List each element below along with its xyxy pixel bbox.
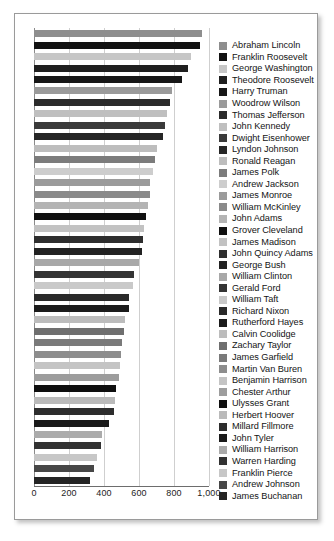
bar <box>34 87 172 94</box>
legend-swatch-icon <box>219 134 227 142</box>
legend-item-label: Dwight Eisenhower <box>232 133 310 144</box>
legend-item[interactable]: Harry Truman <box>219 86 317 98</box>
legend-item[interactable]: John Adams <box>219 213 317 225</box>
legend-item[interactable]: William McKinley <box>219 202 317 214</box>
legend-item[interactable]: Dwight Eisenhower <box>219 132 317 144</box>
legend-item[interactable]: James Polk <box>219 167 317 179</box>
bar <box>34 248 142 255</box>
legend-swatch-icon <box>219 388 227 396</box>
legend-item-label: Calvin Coolidge <box>232 329 296 340</box>
legend-item[interactable]: James Buchanan <box>219 490 317 502</box>
legend-item-label: Zachary Taylor <box>232 340 291 351</box>
legend-item[interactable]: James Madison <box>219 236 317 248</box>
legend-swatch-icon <box>219 481 227 489</box>
bar <box>34 477 90 484</box>
legend-item-label: James Buchanan <box>232 491 302 502</box>
legend-item-label: Ronald Reagan <box>232 156 295 167</box>
legend-swatch-icon <box>219 423 227 431</box>
x-tick-label: 400 <box>96 488 112 498</box>
legend-item[interactable]: Martin Van Buren <box>219 363 317 375</box>
legend-item[interactable]: George Washington <box>219 63 317 75</box>
legend-item[interactable]: Zachary Taylor <box>219 340 317 352</box>
legend-swatch-icon <box>219 180 227 188</box>
legend-item-label: Millard Fillmore <box>232 421 293 432</box>
bar <box>34 385 116 392</box>
legend-swatch-icon <box>219 284 227 292</box>
legend-item[interactable]: Ronald Reagan <box>219 155 317 167</box>
legend-item[interactable]: Franklin Roosevelt <box>219 52 317 64</box>
legend-item[interactable]: James Garfield <box>219 352 317 364</box>
legend-item[interactable]: Ulysses Grant <box>219 398 317 410</box>
legend-item-label: John Kennedy <box>232 121 290 132</box>
legend-item[interactable]: William Clinton <box>219 271 317 283</box>
bar <box>34 328 124 335</box>
legend-item[interactable]: John Tyler <box>219 433 317 445</box>
legend-item[interactable]: Franklin Pierce <box>219 467 317 479</box>
legend-item[interactable]: John Quincy Adams <box>219 248 317 260</box>
legend-item-label: Richard Nixon <box>232 306 289 317</box>
x-tick-label: 1,000 <box>197 488 221 498</box>
legend-swatch-icon <box>219 330 227 338</box>
bar <box>34 259 139 266</box>
legend-item[interactable]: Grover Cleveland <box>219 225 317 237</box>
legend-item-label: Harry Truman <box>232 86 288 97</box>
bar <box>34 454 97 461</box>
legend-item[interactable]: Andrew Johnson <box>219 479 317 491</box>
legend-item[interactable]: Gerald Ford <box>219 282 317 294</box>
bar <box>34 362 120 369</box>
legend-item-label: Warren Harding <box>232 456 296 467</box>
legend-swatch-icon <box>219 469 227 477</box>
legend-swatch-icon <box>219 354 227 362</box>
legend-item[interactable]: Benjamin Harrison <box>219 375 317 387</box>
legend-swatch-icon <box>219 238 227 246</box>
legend-swatch-icon <box>219 365 227 373</box>
legend-item[interactable]: Andrew Jackson <box>219 179 317 191</box>
bar <box>34 179 150 186</box>
bar <box>34 133 163 140</box>
legend-swatch-icon <box>219 377 227 385</box>
legend-item[interactable]: John Kennedy <box>219 121 317 133</box>
bar <box>34 271 134 278</box>
legend-item-label: James Monroe <box>232 190 292 201</box>
legend-swatch-icon <box>219 434 227 442</box>
legend-swatch-icon <box>219 169 227 177</box>
legend-item-label: John Quincy Adams <box>232 248 313 259</box>
legend-item[interactable]: Theodore Roosevelt <box>219 75 317 87</box>
legend-item-label: John Tyler <box>232 433 274 444</box>
legend-item[interactable]: Lyndon Johnson <box>219 144 317 156</box>
legend-item[interactable]: William Harrison <box>219 444 317 456</box>
legend-swatch-icon <box>219 261 227 269</box>
legend-swatch-icon <box>219 227 227 235</box>
legend-item[interactable]: George Bush <box>219 259 317 271</box>
legend-item[interactable]: Thomas Jefferson <box>219 109 317 121</box>
bar <box>34 374 119 381</box>
legend-item[interactable]: Abraham Lincoln <box>219 40 317 52</box>
legend-item-label: Andrew Jackson <box>232 179 299 190</box>
bar <box>34 65 188 72</box>
bar <box>34 294 129 301</box>
legend-swatch-icon <box>219 319 227 327</box>
bar <box>34 442 101 449</box>
legend-swatch-icon <box>219 400 227 408</box>
bar <box>34 191 150 198</box>
legend-item-label: William Harrison <box>232 444 298 455</box>
legend-item-label: Franklin Roosevelt <box>232 52 307 63</box>
legend-item[interactable]: Millard Fillmore <box>219 421 317 433</box>
legend-item-label: John Adams <box>232 213 282 224</box>
legend-item[interactable]: Woodrow Wilson <box>219 98 317 110</box>
x-tick-label: 200 <box>61 488 77 498</box>
legend-item[interactable]: Chester Arthur <box>219 386 317 398</box>
legend-swatch-icon <box>219 65 227 73</box>
legend-item[interactable]: Warren Harding <box>219 456 317 468</box>
legend-item[interactable]: Rutherford Hayes <box>219 317 317 329</box>
legend-item-label: George Washington <box>232 63 313 74</box>
legend-item[interactable]: Herbert Hoover <box>219 410 317 422</box>
legend-swatch-icon <box>219 157 227 165</box>
x-tick-label: 800 <box>166 488 182 498</box>
legend-item[interactable]: Richard Nixon <box>219 306 317 318</box>
bars-layer <box>34 28 209 486</box>
bar <box>34 99 170 106</box>
legend-item[interactable]: James Monroe <box>219 190 317 202</box>
legend-item[interactable]: Calvin Coolidge <box>219 329 317 341</box>
legend-item[interactable]: William Taft <box>219 294 317 306</box>
